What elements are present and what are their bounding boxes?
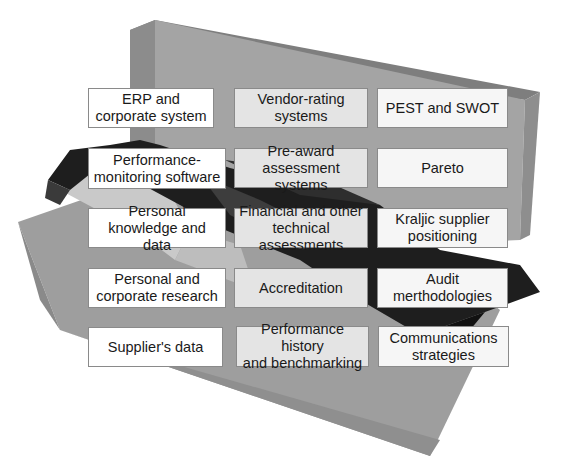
box-personal-knowledge-data: Personal knowledge and data	[88, 208, 226, 248]
box-label: Pre-award assessment systems	[239, 143, 363, 194]
box-personal-corporate-research: Personal and corporate research	[88, 268, 226, 308]
box-label: Personal and corporate research	[96, 271, 218, 305]
box-performance-monitoring-software: Performance- monitoring software	[88, 148, 226, 189]
box-label: Audit merthodologies	[393, 271, 492, 305]
box-pre-award-assessment: Pre-award assessment systems	[234, 148, 368, 188]
box-performance-history-benchmarking: Performance history and benchmarking	[236, 326, 369, 367]
diagram-canvas: ERP and corporate system Performance- mo…	[0, 0, 575, 456]
box-label: Personal knowledge and data	[93, 203, 221, 254]
box-label: Financial and other technical assessment…	[239, 203, 363, 254]
box-label: Performance- monitoring software	[94, 152, 221, 186]
box-label: Pareto	[421, 160, 464, 177]
box-suppliers-data: Supplier's data	[88, 327, 223, 367]
box-label: Accreditation	[259, 280, 343, 297]
box-pareto: Pareto	[377, 148, 508, 188]
box-communications-strategies: Communications strategies	[378, 326, 509, 367]
box-accreditation: Accreditation	[234, 268, 368, 308]
box-vendor-rating-systems: Vendor-rating systems	[234, 88, 368, 128]
box-label: Vendor-rating systems	[257, 91, 344, 125]
box-financial-technical-assessments: Financial and other technical assessment…	[234, 208, 368, 248]
box-label: Supplier's data	[108, 339, 203, 356]
box-label: Kraljic supplier positioning	[395, 211, 489, 245]
box-kraljic-supplier-positioning: Kraljic supplier positioning	[377, 208, 508, 248]
box-label: ERP and corporate system	[95, 91, 206, 125]
box-audit-methodologies: Audit merthodologies	[377, 268, 508, 308]
box-erp-corporate-system: ERP and corporate system	[88, 88, 214, 128]
box-label: Performance history and benchmarking	[241, 321, 364, 372]
box-label: PEST and SWOT	[386, 100, 499, 117]
box-label: Communications strategies	[390, 330, 498, 364]
box-pest-swot: PEST and SWOT	[377, 88, 508, 128]
